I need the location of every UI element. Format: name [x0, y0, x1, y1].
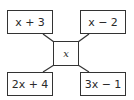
- box-bottom-left-label: 2x + 4: [12, 78, 49, 91]
- connector-bottom-right: [78, 65, 89, 72]
- box-top-right-label: x − 2: [88, 16, 118, 29]
- box-bottom-right: 3x − 1: [80, 72, 126, 96]
- connector-top-right: [78, 34, 89, 42]
- box-center: x: [53, 41, 79, 66]
- box-bottom-right-label: 3x − 1: [85, 78, 122, 91]
- box-top-right: x − 2: [80, 10, 126, 34]
- box-center-label: x: [63, 48, 69, 59]
- box-top-left: x + 3: [7, 10, 53, 34]
- connector-bottom-left: [43, 65, 54, 72]
- box-top-left-label: x + 3: [15, 16, 45, 29]
- expression-diagram: x + 3 x − 2 x 2x + 4 3x − 1: [0, 0, 134, 100]
- box-bottom-left: 2x + 4: [7, 72, 53, 96]
